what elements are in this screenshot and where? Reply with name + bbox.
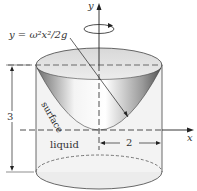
height-label: 3 — [7, 111, 13, 122]
rotating-cylinder-diagram: y = ω²x²/2g surface liquid 3 2 y x — [0, 0, 197, 191]
y-axis-label: y — [88, 0, 94, 11]
equation-label: y = ω²x²/2g — [9, 29, 67, 40]
radius-label: 2 — [126, 137, 132, 148]
liquid-label: liquid — [50, 139, 79, 150]
x-axis-label: x — [187, 132, 193, 143]
